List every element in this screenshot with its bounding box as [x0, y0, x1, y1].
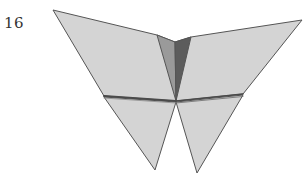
upper-right-wing: [175, 20, 302, 101]
lower-left-wing: [104, 97, 176, 170]
upper-left-wing: [53, 10, 176, 101]
lower-right-wing: [176, 95, 243, 173]
butterfly-diagram: [0, 0, 305, 191]
